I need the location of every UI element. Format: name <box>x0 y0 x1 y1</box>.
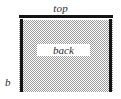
top-member-bar <box>19 15 113 18</box>
frame-diagram: top back b <box>0 0 121 99</box>
top-member-label: top <box>0 3 121 14</box>
back-panel-label: back <box>53 45 74 56</box>
back-panel-hatched-region <box>19 20 113 92</box>
side-member-label: b <box>5 77 11 88</box>
right-side-member-bar <box>109 19 112 92</box>
back-label-callout: back <box>37 44 90 56</box>
left-side-member-bar <box>20 19 23 92</box>
